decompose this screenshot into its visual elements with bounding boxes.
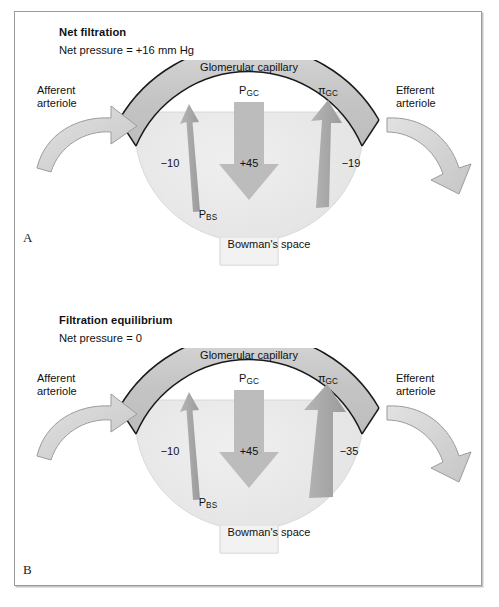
p-bs-label-b: PBS xyxy=(199,496,217,510)
glomerular-capillary-label-a: Glomerular capillary xyxy=(200,61,298,74)
p-gc-sub-b: GC xyxy=(246,377,258,386)
panel-filtration-equilibrium: B Filtration equilibrium Net pressure = … xyxy=(15,300,483,587)
efferent-arteriole-arrow-b xyxy=(387,406,471,482)
p-bs-sub-a: BS xyxy=(206,213,217,222)
panel-b-diagram: Afferent arteriole Efferent arteriole Gl… xyxy=(15,348,483,587)
p-bs-value-a: −10 xyxy=(161,157,180,170)
pi-gc-label-b: πGC xyxy=(318,372,338,386)
afferent-arteriole-label-b: Afferent arteriole xyxy=(37,372,77,398)
panel-a-subtitle: Net pressure = +16 mm Hg xyxy=(59,44,194,56)
figure-frame: A Net filtration Net pressure = +16 mm H… xyxy=(14,11,482,586)
afferent-line1-a: Afferent xyxy=(37,84,75,96)
panel-b-title: Filtration equilibrium xyxy=(59,314,172,326)
pi-gc-base-a: π xyxy=(318,84,326,96)
panel-a-diagram: Afferent arteriole Efferent arteriole Gl… xyxy=(15,60,483,299)
efferent-line2-b: arteriole xyxy=(396,385,436,397)
bowmans-space-label-b: Bowman's space xyxy=(228,526,311,539)
pi-gc-value-b: −35 xyxy=(340,445,359,458)
p-gc-label-a: PGC xyxy=(239,84,259,98)
pi-gc-sub-a: GC xyxy=(326,89,338,98)
p-bs-value-b: −10 xyxy=(161,445,180,458)
p-bs-label-a: PBS xyxy=(199,208,217,222)
afferent-arteriole-label-a: Afferent arteriole xyxy=(37,84,77,110)
panel-net-filtration: A Net filtration Net pressure = +16 mm H… xyxy=(15,12,483,299)
efferent-arteriole-arrow-a xyxy=(387,118,471,194)
efferent-line2-a: arteriole xyxy=(396,97,436,109)
p-bs-sub-b: BS xyxy=(206,501,217,510)
p-gc-label-b: PGC xyxy=(239,372,259,386)
afferent-arteriole-arrow-b xyxy=(37,394,137,460)
panel-a-title: Net filtration xyxy=(59,26,126,38)
efferent-arteriole-label-a: Efferent arteriole xyxy=(396,84,436,110)
afferent-line1-b: Afferent xyxy=(37,372,75,384)
glomerular-capillary-label-b: Glomerular capillary xyxy=(200,349,298,362)
pi-gc-base-b: π xyxy=(318,372,326,384)
figure-root: A Net filtration Net pressure = +16 mm H… xyxy=(0,0,499,607)
panel-b-subtitle: Net pressure = 0 xyxy=(59,332,142,344)
pi-gc-sub-b: GC xyxy=(326,377,338,386)
efferent-arteriole-label-b: Efferent arteriole xyxy=(396,372,436,398)
efferent-line1-b: Efferent xyxy=(396,372,434,384)
bowmans-space-label-a: Bowman's space xyxy=(228,238,311,251)
afferent-arteriole-arrow-a xyxy=(37,106,137,172)
p-gc-sub-a: GC xyxy=(246,89,258,98)
afferent-line2-b: arteriole xyxy=(37,385,77,397)
p-gc-value-a: +45 xyxy=(240,157,259,170)
efferent-line1-a: Efferent xyxy=(396,84,434,96)
afferent-line2-a: arteriole xyxy=(37,97,77,109)
pi-gc-label-a: πGC xyxy=(318,84,338,98)
pi-gc-value-a: −19 xyxy=(342,157,361,170)
p-gc-value-b: +45 xyxy=(240,445,259,458)
